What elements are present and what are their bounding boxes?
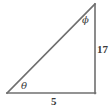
angle-label-phi: ϕ: [82, 15, 89, 25]
angle-label-theta: θ: [21, 81, 27, 91]
side-label-vertical: 17: [97, 44, 108, 55]
side-label-base: 5: [51, 96, 57, 107]
right-triangle-figure: θ ϕ 5 17: [0, 0, 109, 111]
